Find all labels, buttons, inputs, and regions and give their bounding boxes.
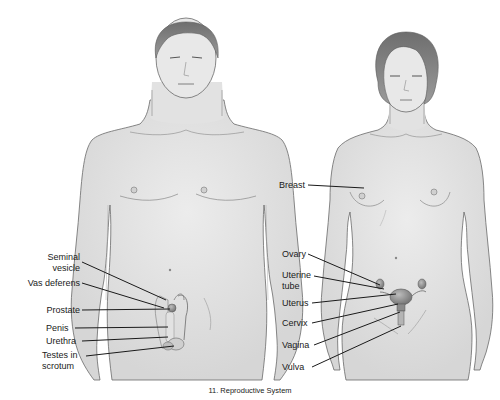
male-nipple-left xyxy=(131,187,137,193)
label-breast: Breast xyxy=(279,180,305,191)
label-seminal-vesicle: Seminal vesicle xyxy=(18,252,80,273)
female-nipple-right xyxy=(431,189,437,195)
vagina-organ xyxy=(398,311,404,325)
label-penis: Penis xyxy=(46,323,69,334)
label-vagina: Vagina xyxy=(282,340,309,351)
label-cervix: Cervix xyxy=(282,318,308,329)
ovary-right xyxy=(418,279,426,289)
male-body-outline xyxy=(71,100,303,380)
female-nipple-left xyxy=(359,193,365,199)
male-figure xyxy=(71,18,303,380)
cervix-organ xyxy=(397,304,405,311)
label-testes-in-scrotum: Testes in scrotum xyxy=(42,350,78,371)
uterus-organ xyxy=(390,289,412,305)
label-ovary: Ovary xyxy=(282,249,306,260)
label-vulva: Vulva xyxy=(282,362,304,373)
male-nipple-right xyxy=(201,187,207,193)
female-body-outline xyxy=(321,112,493,380)
label-prostate: Prostate xyxy=(18,305,80,316)
reproductive-system-diagram: Seminal vesicle Vas deferens Prostate Pe… xyxy=(0,0,500,400)
label-uterine-tube: Uterine tube xyxy=(282,270,311,291)
female-figure xyxy=(308,32,493,380)
label-urethra: Urethra xyxy=(46,336,76,347)
label-uterus: Uterus xyxy=(282,298,309,309)
figure-caption: 11. Reproductive System xyxy=(0,386,500,395)
prostate-organ xyxy=(168,304,176,312)
label-vas-deferens: Vas deferens xyxy=(4,278,80,289)
